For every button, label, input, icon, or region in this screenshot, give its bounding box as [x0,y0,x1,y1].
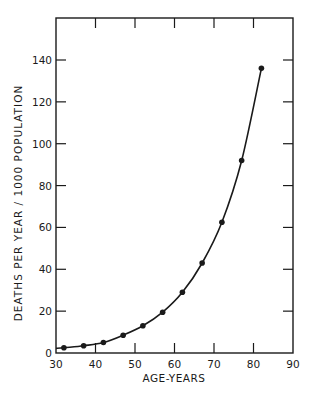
x-tick-label: 40 [89,358,102,370]
data-point-marker [101,340,107,346]
x-tick-label: 80 [247,358,260,370]
x-tick-label: 90 [286,358,299,370]
data-point-marker [120,332,126,338]
data-point-marker [140,323,146,329]
y-tick-label: 80 [39,180,52,192]
y-tick-label: 100 [32,138,52,150]
data-point-marker [199,260,205,266]
data-series [56,66,264,351]
axis-ticks [56,18,293,353]
y-tick-label: 40 [39,263,52,275]
y-tick-label: 140 [32,54,52,66]
data-point-marker [219,219,225,225]
data-point-marker [239,158,245,164]
data-point-marker [160,309,166,315]
x-tick-label: 60 [168,358,181,370]
y-axis-label: DEATHS PER YEAR / 1000 POPULATION [12,85,24,322]
data-point-marker [180,290,186,296]
plot-frame [56,18,293,353]
data-point-marker [259,66,265,72]
y-axis-tick-labels: 020406080100120140 [32,54,52,359]
x-axis-label: AGE-YEARS [142,372,205,384]
y-tick-label: 120 [32,96,52,108]
y-tick-label: 60 [39,221,52,233]
data-point-marker [61,345,67,351]
data-point-marker [81,343,87,349]
x-tick-label: 30 [49,358,62,370]
x-axis-tick-labels: 30405060708090 [49,358,299,370]
series-curve [56,68,261,348]
y-tick-label: 20 [39,305,52,317]
x-tick-label: 50 [128,358,141,370]
chart: 020406080100120140 30405060708090 AGE-YE… [0,0,315,393]
x-tick-label: 70 [207,358,220,370]
